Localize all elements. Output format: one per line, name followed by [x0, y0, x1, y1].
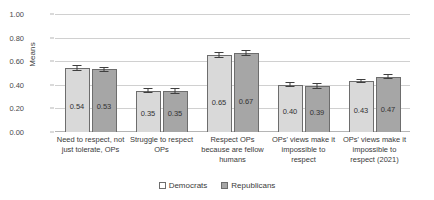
bar-value-label: 0.53: [93, 102, 116, 111]
bar-slot: 0.40: [278, 14, 303, 132]
y-axis-tick-mark: [50, 84, 54, 85]
y-axis-tick-label: 0.80: [0, 33, 24, 42]
bar-chart: Means 0.000.200.400.600.801.00 0.540.530…: [0, 0, 434, 200]
bar-group: 0.650.67: [197, 14, 268, 132]
x-axis-category-label: Respect OPs because are fellow humans: [197, 135, 268, 165]
y-axis-tick-mark: [50, 61, 54, 62]
bar-group: 0.430.47: [339, 14, 410, 132]
bar-value-label: 0.67: [235, 97, 258, 106]
bar-value-label: 0.40: [279, 107, 302, 116]
error-bar-cap: [313, 88, 322, 89]
error-bar: [384, 74, 393, 79]
bar-slot: 0.47: [376, 14, 401, 132]
bar-republicans[interactable]: 0.67: [234, 53, 259, 132]
bar-slot: 0.35: [163, 14, 188, 132]
bar-democrats[interactable]: 0.54: [65, 68, 90, 132]
error-bar-cap: [144, 92, 153, 93]
bar-value-label: 0.35: [164, 109, 187, 118]
bar-slot: 0.65: [207, 14, 232, 132]
y-axis-title: Means: [28, 25, 37, 85]
x-axis-category-label: Need to respect, not just tolerate, OPs: [55, 135, 126, 165]
bar-democrats[interactable]: 0.43: [349, 81, 374, 132]
error-bar: [357, 79, 366, 83]
y-axis-tick-label: 0.40: [0, 80, 24, 89]
bar-republicans[interactable]: 0.47: [376, 77, 401, 132]
bar-group: 0.350.35: [126, 14, 197, 132]
legend-swatch-icon: [159, 182, 166, 189]
error-bar: [215, 52, 224, 58]
legend-swatch-icon: [221, 182, 228, 189]
bar-slot: 0.35: [136, 14, 161, 132]
bar-republicans[interactable]: 0.35: [163, 91, 188, 132]
error-bar: [144, 88, 153, 93]
y-axis-tick-label: 1.00: [0, 10, 24, 19]
error-bar: [313, 83, 322, 88]
bar-value-label: 0.54: [66, 102, 89, 111]
bar-slot: 0.67: [234, 14, 259, 132]
y-axis-tick-mark: [50, 14, 54, 15]
error-bar-cap: [100, 71, 109, 72]
error-bar: [286, 82, 295, 87]
bar-value-label: 0.43: [350, 106, 373, 115]
error-bar-cap: [357, 82, 366, 83]
error-bar-cap: [73, 70, 82, 71]
legend-label: Democrats: [169, 181, 208, 190]
bar-democrats[interactable]: 0.65: [207, 55, 232, 132]
y-axis-tick-mark: [50, 108, 54, 109]
bar-value-label: 0.39: [306, 108, 329, 117]
bar-slot: 0.39: [305, 14, 330, 132]
bar-democrats[interactable]: 0.35: [136, 91, 161, 132]
bar-value-label: 0.65: [208, 98, 231, 107]
bar-slot: 0.43: [349, 14, 374, 132]
bar-value-label: 0.47: [377, 105, 400, 114]
x-axis-category-labels: Need to respect, not just tolerate, OPsS…: [55, 135, 410, 165]
bar-group: 0.540.53: [55, 14, 126, 132]
error-bar-cap: [171, 93, 180, 94]
bar-slot: 0.53: [92, 14, 117, 132]
x-axis-category-label: Struggle to respect OPs: [126, 135, 197, 165]
y-axis-tick-mark: [50, 132, 54, 133]
error-bar: [73, 65, 82, 71]
y-axis-tick-label: 0.20: [0, 104, 24, 113]
legend-item-republicans[interactable]: Republicans: [221, 181, 275, 190]
bar-republicans[interactable]: 0.53: [92, 69, 117, 132]
bar-slot: 0.54: [65, 14, 90, 132]
error-bar: [100, 67, 109, 73]
error-bar-cap: [384, 78, 393, 79]
error-bar: [242, 50, 251, 55]
error-bar-cap: [215, 57, 224, 58]
bar-republicans[interactable]: 0.39: [305, 86, 330, 132]
y-axis-tick-label: 0.00: [0, 128, 24, 137]
x-axis-category-label: OPs' views make it impossible to respect…: [339, 135, 410, 165]
bar-group: 0.400.39: [268, 14, 339, 132]
legend-item-democrats[interactable]: Democrats: [159, 181, 208, 190]
bar-value-label: 0.35: [137, 109, 160, 118]
y-axis-tick-label: 0.60: [0, 57, 24, 66]
error-bar: [171, 88, 180, 94]
bar-democrats[interactable]: 0.40: [278, 85, 303, 132]
x-axis-category-label: OPs' views make it impossible to respect: [268, 135, 339, 165]
error-bar-cap: [286, 86, 295, 87]
chart-legend: Democrats Republicans: [0, 181, 434, 190]
legend-label: Republicans: [231, 181, 275, 190]
error-bar-cap: [242, 55, 251, 56]
y-axis-tick-mark: [50, 37, 54, 38]
bar-groups: 0.540.530.350.350.650.670.400.390.430.47: [55, 14, 410, 132]
